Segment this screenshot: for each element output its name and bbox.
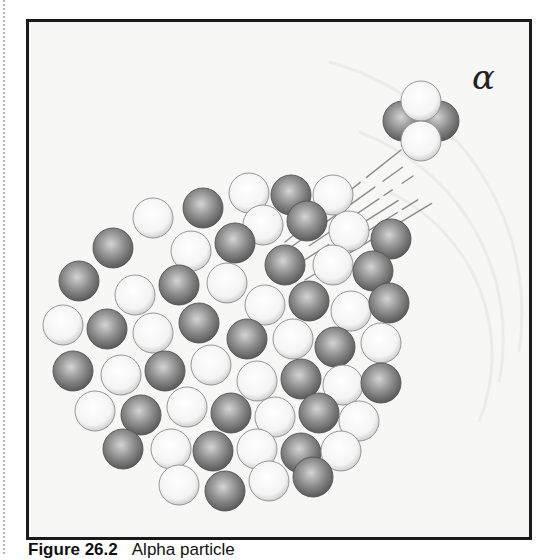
neutron-sphere (273, 319, 313, 359)
proton-sphere (361, 363, 401, 403)
proton-sphere (103, 429, 143, 469)
proton-sphere (227, 319, 267, 359)
neutron-sphere (133, 313, 173, 353)
alpha-symbol-label: α (472, 60, 495, 94)
proton-sphere (315, 327, 355, 367)
figure-caption-text: Alpha particle (132, 540, 235, 559)
proton-sphere (179, 303, 219, 343)
proton-sphere (299, 393, 339, 433)
nucleus (43, 173, 411, 511)
neutron-sphere (401, 81, 441, 121)
proton-sphere (293, 457, 333, 497)
proton-sphere (183, 188, 223, 228)
proton-sphere (369, 283, 409, 323)
proton-sphere (287, 201, 327, 241)
neutron-sphere (151, 429, 191, 469)
alpha-decay-illustration (29, 22, 529, 537)
proton-sphere (53, 351, 93, 391)
proton-sphere (145, 351, 185, 391)
proton-sphere (93, 228, 133, 268)
neutron-sphere (361, 323, 401, 363)
proton-sphere (205, 471, 245, 511)
neutron-sphere (401, 121, 441, 161)
neutron-sphere (101, 355, 141, 395)
neutron-sphere (237, 361, 277, 401)
neutron-sphere (159, 465, 199, 505)
neutron-sphere (207, 263, 247, 303)
neutron-sphere (43, 305, 83, 345)
neutron-sphere (115, 275, 155, 315)
margin-rule (3, 0, 5, 556)
proton-sphere (59, 261, 99, 301)
neutron-sphere (75, 391, 115, 431)
proton-sphere (265, 245, 305, 285)
proton-sphere (289, 281, 329, 321)
neutron-sphere (249, 461, 289, 501)
proton-sphere (159, 265, 199, 305)
proton-sphere (211, 393, 251, 433)
figure-number: Figure 26.2 (28, 540, 118, 559)
neutron-sphere (133, 198, 173, 238)
proton-sphere (87, 309, 127, 349)
neutron-sphere (313, 245, 353, 285)
proton-sphere (193, 431, 233, 471)
proton-sphere (215, 223, 255, 263)
figure-caption: Figure 26.2Alpha particle (28, 540, 235, 560)
neutron-sphere (167, 387, 207, 427)
figure-frame: α (26, 19, 532, 540)
neutron-sphere (331, 291, 371, 331)
neutron-sphere (191, 345, 231, 385)
